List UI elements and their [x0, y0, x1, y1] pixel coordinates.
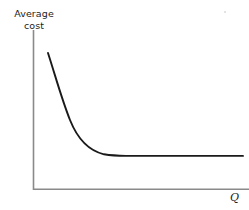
average-cost-curve — [48, 53, 243, 156]
average-cost-curve-figure: Average cost Q — [0, 0, 249, 210]
chart-canvas — [0, 0, 249, 210]
x-axis-label: Q — [230, 191, 239, 204]
y-axis-label: Average cost — [6, 8, 62, 31]
scan-artifact-speck — [224, 11, 226, 13]
